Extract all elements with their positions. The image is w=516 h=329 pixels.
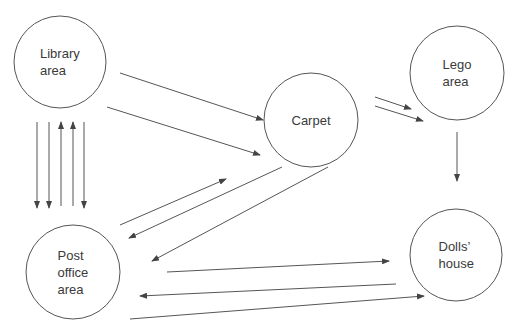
node-label-line: Lego <box>443 56 472 73</box>
node-label-line: Library <box>40 45 80 62</box>
node-label-line: house <box>439 255 474 272</box>
node-dolls-label: Dolls’house <box>439 238 474 272</box>
node-label-line: area <box>40 62 80 79</box>
node-label-line: Carpet <box>292 112 331 129</box>
arrow-post-to-dolls <box>167 261 389 272</box>
arrow-carpet-to-lego <box>375 106 423 121</box>
node-library-label: Libraryarea <box>40 45 80 79</box>
node-label-line: area <box>58 281 89 298</box>
arrow-carpet-to-post <box>152 167 328 261</box>
node-post-label: Postofficearea <box>58 247 89 298</box>
edge-group <box>37 73 457 319</box>
node-label-line: Post <box>58 247 89 264</box>
node-label-line: area <box>443 73 472 90</box>
arrow-post-to-dolls <box>130 296 424 319</box>
node-label-line: Dolls’ <box>439 238 474 255</box>
node-label-line: office <box>58 264 89 281</box>
node-carpet-label: Carpet <box>292 112 331 129</box>
node-lego-label: Legoarea <box>443 56 472 90</box>
arrow-library-to-carpet <box>107 107 260 155</box>
arrow-carpet-to-post <box>129 167 282 238</box>
arrow-library-to-carpet <box>120 73 263 120</box>
arrow-dolls-to-post <box>140 284 396 296</box>
